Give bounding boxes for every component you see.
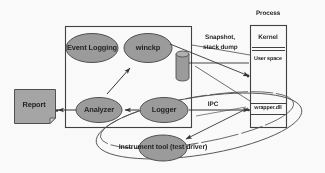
- node-instrument-tool-label: Instrument tool (test driver): [119, 144, 208, 151]
- datastore-cylinder: [176, 51, 189, 81]
- node-event-logging-label: Event Logging: [67, 44, 117, 52]
- edge-ipc-underline: [196, 107, 246, 116]
- wrapper-dll-label: wrapper.dll: [254, 106, 281, 112]
- ipc-label: IPC: [208, 102, 218, 109]
- process-title-label: Process: [256, 11, 280, 18]
- node-report-label: Report: [22, 101, 45, 109]
- node-logger-label: Logger: [152, 106, 176, 114]
- edge-analyzer-to-winckp: [107, 68, 130, 94]
- edge-wrapper-to-instrument-tool: [186, 108, 248, 139]
- report-doc-fold: [50, 118, 56, 124]
- node-winckp-label: winckp: [136, 44, 160, 52]
- snapshot-label-line2: stack dump: [203, 45, 238, 52]
- user-space-label: User space: [254, 57, 282, 63]
- kernel-label: Kernel: [258, 35, 277, 42]
- diagram-canvas: Event Logging winckp Analyzer Logger Ins…: [0, 0, 325, 173]
- node-analyzer-label: Analyzer: [84, 106, 114, 114]
- instrument-scope-ellipse-outer: [92, 81, 307, 171]
- snapshot-label-line1: Snapshot,: [205, 35, 235, 42]
